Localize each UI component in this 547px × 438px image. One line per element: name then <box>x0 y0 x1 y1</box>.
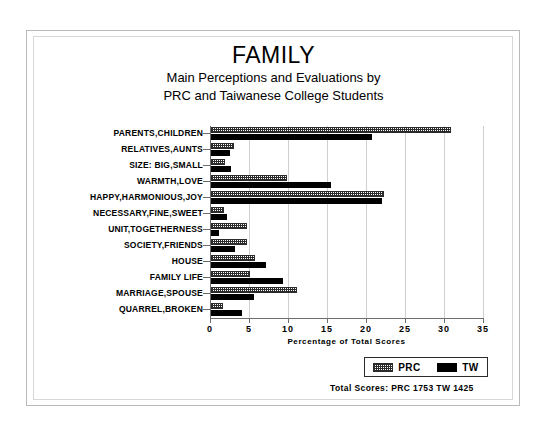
bar-group <box>210 174 483 190</box>
x-tick-mark <box>288 318 289 323</box>
plot-area <box>210 126 483 318</box>
bar-prc <box>211 191 384 197</box>
bar-prc <box>211 255 255 261</box>
x-tick-label: 30 <box>438 324 450 334</box>
x-tick-mark <box>405 318 406 323</box>
x-tick-mark <box>249 318 250 323</box>
category-label: PARENTS,CHILDREN <box>60 128 203 138</box>
legend-label-prc: PRC <box>398 362 421 373</box>
title-block: FAMILY Main Perceptions and Evaluations … <box>0 42 547 104</box>
legend-item-prc: PRC <box>373 362 421 373</box>
bar-prc <box>211 143 234 149</box>
category-label: MARRIAGE,SPOUSE <box>60 288 203 298</box>
x-axis-title: Percentage of Total Scores <box>210 337 483 346</box>
category-tick <box>203 229 210 230</box>
category-tick <box>203 133 210 134</box>
bar-group <box>210 238 483 254</box>
category-label: RELATIVES,AUNTS <box>60 144 203 154</box>
bar-prc <box>211 127 451 133</box>
figure-page: FAMILY Main Perceptions and Evaluations … <box>0 0 547 438</box>
category-tick <box>203 213 210 214</box>
x-tick-label: 10 <box>282 324 294 334</box>
category-tick <box>203 149 210 150</box>
bar-tw <box>211 214 227 220</box>
category-label: NECESSARY,FINE,SWEET <box>60 208 203 218</box>
x-tick-label: 20 <box>360 324 372 334</box>
legend-item-tw: TW <box>437 362 479 373</box>
category-label: FAMILY LIFE <box>60 272 203 282</box>
x-tick-mark <box>366 318 367 323</box>
bar-group <box>210 254 483 270</box>
category-label: UNIT,TOGETHERNESS <box>60 224 203 234</box>
bar-group <box>210 302 483 318</box>
x-tick-mark <box>483 318 484 323</box>
bar-prc <box>211 159 225 165</box>
legend-swatch-prc-icon <box>373 363 393 372</box>
bar-group <box>210 222 483 238</box>
chart-subtitle-line-2: PRC and Taiwanese College Students <box>0 88 547 104</box>
legend: PRC TW <box>364 357 488 377</box>
x-tick-label: 15 <box>321 324 333 334</box>
bar-group <box>210 286 483 302</box>
chart-title: FAMILY <box>0 42 547 68</box>
category-tick <box>203 309 210 310</box>
bar-tw <box>211 230 219 236</box>
bar-prc <box>211 303 223 309</box>
bar-tw <box>211 166 231 172</box>
bar-group <box>210 270 483 286</box>
x-tick-label: 5 <box>246 324 252 334</box>
legend-label-tw: TW <box>462 362 479 373</box>
category-label: HOUSE <box>60 256 203 266</box>
category-tick <box>203 165 210 166</box>
category-tick <box>203 277 210 278</box>
bar-tw <box>211 182 331 188</box>
gridline-35 <box>483 126 484 318</box>
category-label: SOCIETY,FRIENDS <box>60 240 203 250</box>
bar-group <box>210 126 483 142</box>
bar-prc <box>211 223 247 229</box>
category-tick <box>203 245 210 246</box>
x-tick-label: 35 <box>477 324 489 334</box>
category-tick <box>203 293 210 294</box>
category-tick <box>203 197 210 198</box>
bar-prc <box>211 175 287 181</box>
category-label: QUARREL,BROKEN <box>60 304 203 314</box>
x-tick-label: 0 <box>207 324 213 334</box>
category-axis-labels: PARENTS,CHILDRENRELATIVES,AUNTSSIZE: BIG… <box>60 126 203 318</box>
bar-group <box>210 158 483 174</box>
bar-group <box>210 190 483 206</box>
category-label: HAPPY,HARMONIOUS,JOY <box>60 192 203 202</box>
bar-tw <box>211 150 230 156</box>
category-label: SIZE: BIG,SMALL <box>60 160 203 170</box>
bar-tw <box>211 246 235 252</box>
bar-prc <box>211 207 224 213</box>
x-tick-label: 25 <box>399 324 411 334</box>
category-label: WARMTH,LOVE <box>60 176 203 186</box>
bar-group <box>210 206 483 222</box>
legend-swatch-tw-icon <box>437 363 457 372</box>
x-tick-mark <box>210 318 211 323</box>
bar-tw <box>211 294 254 300</box>
bar-rows <box>210 126 483 318</box>
x-tick-mark <box>327 318 328 323</box>
chart-subtitle-line-1: Main Perceptions and Evaluations by <box>0 70 547 86</box>
bar-tw <box>211 310 242 316</box>
bar-group <box>210 142 483 158</box>
x-axis-ticks: 05101520253035 <box>210 318 483 334</box>
bar-prc <box>211 287 297 293</box>
total-scores-note: Total Scores: PRC 1753 TW 1425 <box>330 383 474 393</box>
category-tick <box>203 261 210 262</box>
x-tick-mark <box>444 318 445 323</box>
bar-tw <box>211 134 372 140</box>
bar-tw <box>211 198 382 204</box>
bar-tw <box>211 278 283 284</box>
bar-prc <box>211 271 250 277</box>
bar-tw <box>211 262 266 268</box>
bar-prc <box>211 239 247 245</box>
category-tick <box>203 181 210 182</box>
